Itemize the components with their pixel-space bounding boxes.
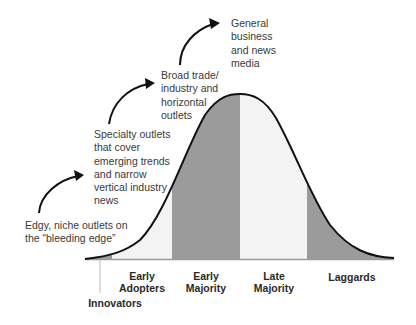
note-edgy-niche: Edgy, niche outlets onthe “bleeding edge… xyxy=(25,219,128,246)
label-early-adopters: EarlyAdopters xyxy=(117,270,167,294)
label-early-majority: EarlyMajority xyxy=(181,270,231,294)
label-late-majority: LateMajority xyxy=(248,270,300,294)
label-innovators: Innovators xyxy=(85,297,145,309)
segment-late-majority-fill xyxy=(240,80,307,259)
note-general-media: Generalbusinessand newsmedia xyxy=(231,17,276,70)
label-laggards: Laggards xyxy=(322,271,382,283)
note-broad-trade: Broad trade/industry andhorizontaloutlet… xyxy=(161,69,219,122)
segment-laggards-fill xyxy=(307,80,397,259)
note-specialty-outlets: Specialty outletsthat coveremerging tren… xyxy=(94,128,170,208)
